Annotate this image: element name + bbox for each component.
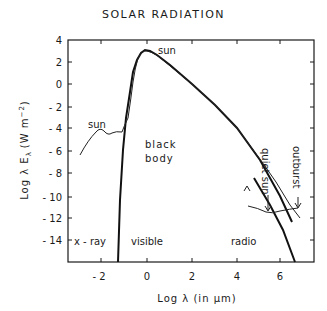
label-outburst: outburst bbox=[291, 146, 302, 188]
svg-text:- 12: - 12 bbox=[42, 213, 62, 224]
y-tick-labels: 4 2 0 - 2 - 4 - 6 - 8 - 10 - 12 - 14 bbox=[42, 35, 62, 246]
label-quiet-sun: quiet sun bbox=[260, 148, 271, 195]
y-ticks bbox=[68, 62, 314, 240]
svg-text:- 4: - 4 bbox=[49, 123, 62, 134]
svg-text:outburst: outburst bbox=[291, 146, 302, 188]
svg-text:- 10: - 10 bbox=[42, 192, 62, 203]
svg-text:- 2: - 2 bbox=[49, 102, 62, 113]
label-body: body bbox=[145, 153, 174, 164]
svg-text:- 6: - 6 bbox=[49, 146, 62, 157]
label-sun-left: sun bbox=[88, 119, 106, 130]
svg-text:0: 0 bbox=[144, 271, 150, 282]
label-black: black bbox=[145, 139, 177, 150]
y-axis-label: Log λ Eλ(W m−2) bbox=[18, 100, 33, 200]
x-tick-labels: - 2 0 2 4 6 bbox=[92, 271, 283, 282]
svg-text:2: 2 bbox=[189, 271, 195, 282]
svg-text:- 14: - 14 bbox=[42, 235, 62, 246]
svg-text:4: 4 bbox=[56, 35, 62, 46]
svg-text:4: 4 bbox=[234, 271, 240, 282]
label-x-ray: x - ray bbox=[74, 236, 106, 247]
svg-text:6: 6 bbox=[277, 271, 283, 282]
svg-text:0: 0 bbox=[56, 79, 62, 90]
svg-text:quiet sun: quiet sun bbox=[260, 148, 271, 195]
radio-arrowhead bbox=[244, 186, 250, 191]
svg-text:Log λ Eλ(W m−2): Log λ Eλ(W m−2) bbox=[18, 100, 33, 200]
svg-text:2: 2 bbox=[56, 57, 62, 68]
svg-text:- 2: - 2 bbox=[92, 271, 105, 282]
chart-canvas: 4 2 0 - 2 - 4 - 6 - 8 - 10 - 12 - 14 - 2… bbox=[0, 0, 327, 311]
label-sun-peak: sun bbox=[158, 45, 176, 56]
svg-text:- 8: - 8 bbox=[49, 168, 62, 179]
label-radio: radio bbox=[231, 236, 256, 247]
x-axis-label: Log λ (in μm) bbox=[157, 293, 236, 304]
plot-frame bbox=[68, 40, 314, 262]
label-visible: visible bbox=[131, 236, 163, 247]
